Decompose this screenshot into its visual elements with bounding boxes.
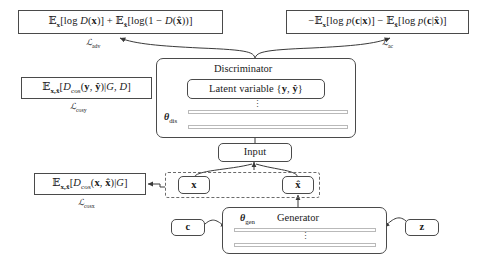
cosy-loss-box: 𝔼x,x̂[Dcos(y, ŷ)|G, D] [21, 77, 152, 99]
theta-dis-label: θdis [164, 111, 177, 124]
discriminator-layers-ellipsis: ⋮ [253, 100, 262, 109]
latent-variable-text: Latent variable {y, ŷ} [209, 84, 303, 95]
loss-cosx-label: ℒcosx [78, 197, 95, 209]
arrow-z-to-generator [384, 218, 406, 227]
x-hat-box: x̂ [282, 176, 314, 194]
arrow-discriminator-to-ac [255, 38, 390, 60]
diagram-canvas: 𝔼x[log D(x)] + 𝔼x̂[log(1 − D(x̂))] ℒadv … [0, 0, 485, 257]
arrow-inputs-to-cosx [148, 184, 165, 187]
x-box: x [178, 176, 210, 194]
arrow-discriminator-to-adv [120, 38, 255, 60]
loss-ac-label: ℒac [382, 37, 393, 49]
z-box: z [405, 219, 439, 236]
x-hat-label: x̂ [295, 180, 300, 191]
input-box: Input [218, 143, 292, 162]
ac-loss-formula: −𝔼x[log p(c|x)] − 𝔼x̂[log p(c|x̂)] [308, 15, 446, 29]
ac-loss-box: −𝔼x[log p(c|x)] − 𝔼x̂[log p(c|x̂)] [286, 10, 469, 34]
latent-variable-box: Latent variable {y, ŷ} [187, 79, 325, 99]
discriminator-layer-bar-2 [188, 125, 348, 129]
loss-cosy-label: ℒcosy [70, 101, 87, 113]
c-label: c [186, 222, 191, 233]
z-label: z [420, 222, 425, 233]
x-label: x [191, 180, 196, 191]
generator-layers-ellipsis: ⋮ [301, 232, 310, 241]
cosy-loss-formula: 𝔼x,x̂[Dcos(y, ŷ)|G, D] [42, 81, 130, 95]
generator-title: Generator [277, 212, 319, 223]
cosx-loss-box: 𝔼x,x̂[Dcos(x, x̂)|G] [34, 173, 146, 195]
discriminator-layer-bar-1 [188, 110, 348, 114]
adv-loss-box: 𝔼x[log D(x)] + 𝔼x̂[log(1 − D(x̂))] [18, 10, 223, 34]
discriminator-title: Discriminator [214, 63, 272, 74]
theta-gen-label: θgen [240, 212, 255, 225]
loss-adv-label: ℒadv [86, 37, 100, 49]
cosx-loss-formula: 𝔼x,x̂[Dcos(x, x̂)|G] [52, 177, 127, 191]
c-box: c [171, 219, 205, 236]
generator-layer-bar-2 [234, 243, 376, 247]
adv-loss-formula: 𝔼x[log D(x)] + 𝔼x̂[log(1 − D(x̂))] [48, 15, 192, 29]
